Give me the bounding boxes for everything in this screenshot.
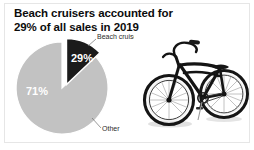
callout-label-beach-cruisers: Beach cruisers: [97, 33, 134, 40]
callout-label-other: Other: [102, 125, 120, 132]
pie-chart: 71% 29% Beach cruisers Other: [4, 32, 134, 142]
slice-value-beach-cruisers: 29%: [71, 52, 93, 64]
chart-figure: Beach cruisers accounted for 29% of all …: [0, 0, 254, 150]
leader-line-other: [92, 118, 101, 128]
chart-title: Beach cruisers accounted for 29% of all …: [14, 7, 229, 34]
handlebars: [163, 43, 197, 57]
slice-value-other: 71%: [26, 85, 48, 97]
bicycle-illustration: [136, 36, 250, 140]
bicycle-photo: [136, 36, 250, 140]
kickstand: [198, 102, 202, 120]
leader-line-beach-cruisers: [88, 39, 96, 46]
